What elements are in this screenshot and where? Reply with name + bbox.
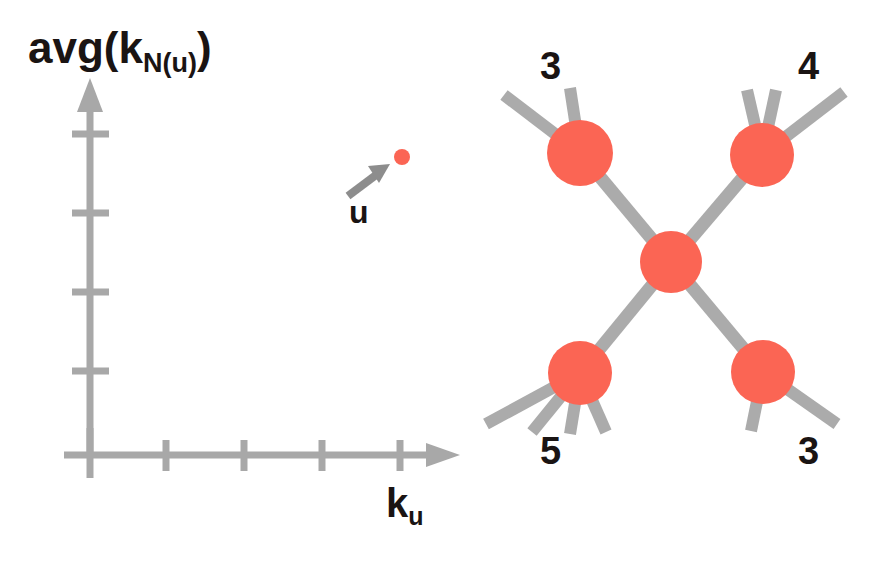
y-axis-label: avg(kN(u)) xyxy=(28,26,212,70)
data-point-u xyxy=(394,149,410,165)
degree-label-bottom-left: 5 xyxy=(540,432,561,470)
degree-label-bottom-right: 3 xyxy=(798,432,819,470)
x-axis-arrowhead xyxy=(426,443,460,467)
data-point-label-u: u xyxy=(349,196,369,228)
node-top-right xyxy=(730,123,794,187)
x-axis-label: ku xyxy=(386,483,424,523)
degree-label-top-right: 4 xyxy=(798,47,819,85)
y-axis-arrowhead xyxy=(77,78,103,112)
y-axis-label-subscript: N(u) xyxy=(143,48,197,78)
y-axis-label-close-paren: ) xyxy=(197,23,212,72)
figure-canvas: avg(kN(u)) ku u 3 4 5 3 xyxy=(0,0,894,562)
figure-graphics xyxy=(0,0,894,562)
node-top-left xyxy=(547,120,613,186)
degree-label-top-left: 3 xyxy=(540,47,561,85)
pointer-arrow-to-u xyxy=(348,164,390,196)
plot-axes xyxy=(64,105,440,455)
x-axis-label-main: k xyxy=(386,481,408,525)
node-bottom-left xyxy=(548,341,612,405)
node-bottom-right xyxy=(731,340,795,404)
network-nodes xyxy=(547,120,795,405)
x-axis-label-subscript: u xyxy=(408,502,423,530)
node-center-u xyxy=(640,231,702,293)
y-axis-label-main: avg(k xyxy=(28,23,143,72)
